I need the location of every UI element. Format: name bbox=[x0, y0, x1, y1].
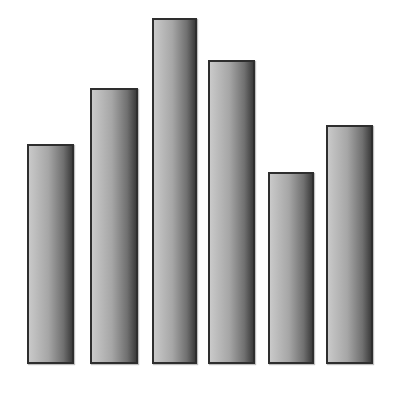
bar-chart bbox=[0, 0, 395, 397]
bar-3 bbox=[152, 18, 197, 364]
bar-6 bbox=[326, 125, 373, 364]
bar-4 bbox=[208, 60, 255, 364]
bar-5 bbox=[268, 172, 314, 364]
bar-1 bbox=[27, 144, 74, 364]
bar-2 bbox=[90, 88, 138, 364]
